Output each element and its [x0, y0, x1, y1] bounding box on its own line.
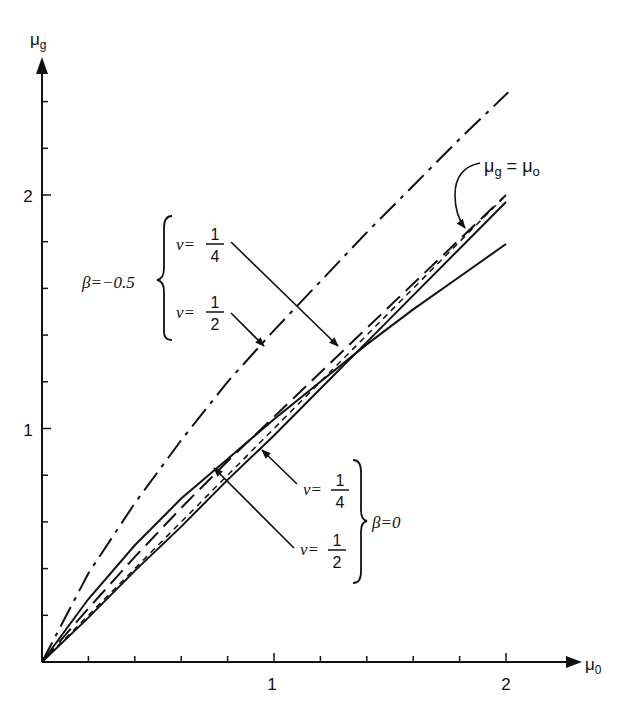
- beta-zero-brace: [353, 460, 367, 583]
- pointer-arrow: [214, 468, 294, 548]
- y-axis-arrow-icon: [36, 57, 48, 74]
- frac-num: 1: [211, 294, 220, 311]
- beta-neg-brace: [157, 216, 172, 340]
- nu-half-label-a: ν=: [176, 303, 195, 322]
- x-ticks: [88, 653, 506, 662]
- beta-zero-label: β=0: [371, 513, 401, 532]
- nu-quarter-label-a: ν=: [176, 235, 195, 254]
- series-line-4: [42, 195, 506, 662]
- frac-num: 1: [336, 472, 345, 489]
- series-line-1: [42, 195, 506, 662]
- series-line-3: [42, 202, 506, 662]
- y-ticks: [42, 102, 51, 616]
- identity-label: μg = μo: [484, 156, 540, 179]
- x-axis-label: μ0: [585, 655, 602, 677]
- frac-num: 1: [211, 226, 220, 243]
- pointer-arrow: [231, 313, 264, 346]
- x-tick-label-2: 2: [501, 675, 510, 694]
- series-group: [42, 92, 508, 662]
- frac-den: 2: [211, 316, 220, 333]
- pointer-arrow: [231, 242, 338, 346]
- pointer-arrow: [262, 450, 297, 484]
- frac-den: 2: [333, 554, 342, 571]
- beta-neg-label: β=−0.5: [81, 273, 135, 292]
- y-tick-label-2: 2: [23, 187, 32, 206]
- frac-num: 1: [333, 532, 342, 549]
- x-axis-arrow-icon: [566, 656, 582, 668]
- nu-quarter-label-b: ν=: [303, 480, 322, 499]
- nu-half-label-b: ν=: [300, 540, 319, 559]
- series-line-0: [42, 92, 508, 662]
- frac-den: 4: [211, 248, 220, 265]
- y-axis-label: μg: [30, 30, 46, 52]
- x-tick-label-1: 1: [267, 675, 276, 694]
- chart: 1 2 1 2 μg μ0 β=−0.5 ν= 1 4 ν= 1 2 ν= 1 …: [0, 0, 633, 704]
- y-tick-label-1: 1: [23, 421, 32, 440]
- series-line-2: [42, 244, 506, 662]
- frac-den: 4: [336, 494, 345, 511]
- identity-pointer-arrow: [455, 163, 480, 228]
